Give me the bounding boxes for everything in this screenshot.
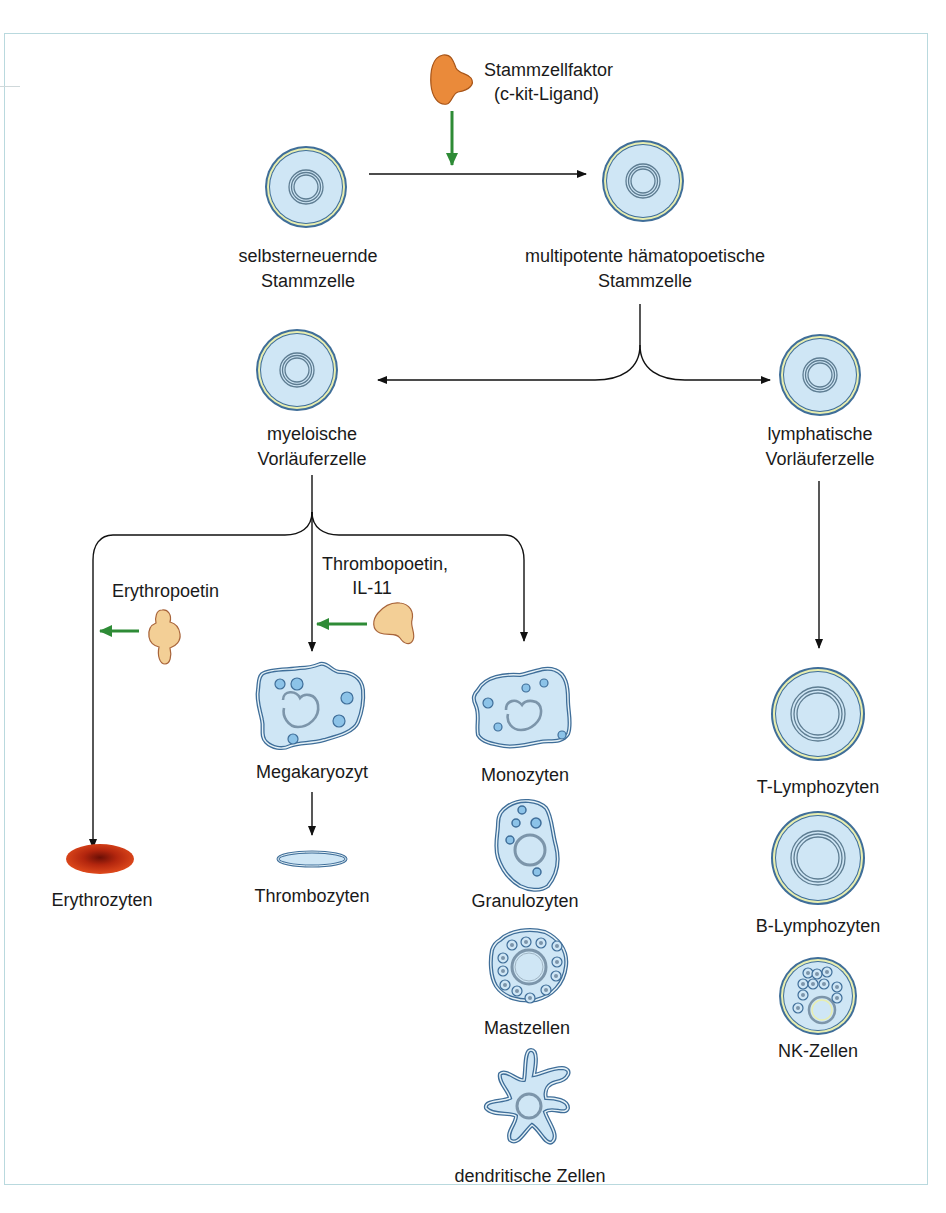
monocyte-icon	[474, 669, 570, 747]
nk-cells-label: NK-Zellen	[778, 1041, 858, 1061]
myeloid-branch-arrows	[93, 475, 524, 848]
thrombopoetin-label: Thrombopoetin,	[322, 554, 448, 574]
thrombopoetin-label-2: IL-11	[352, 578, 392, 598]
thrombocyte-icon	[278, 852, 346, 866]
b-lymphocytes-label: B-Lymphozyten	[756, 916, 880, 936]
dendritic-cells-label: dendritische Zellen	[454, 1166, 605, 1186]
myeloid-progenitor-icon	[256, 329, 338, 411]
dendritic-cell-icon	[486, 1050, 569, 1143]
multipotent-stem-cell-label-2: Stammzelle	[598, 271, 692, 291]
multipotent-stem-cell-icon	[602, 140, 684, 222]
hematopoiesis-diagram: Stammzellfaktor (c-kit-Ligand) selbstern…	[0, 0, 946, 1213]
lymphoid-progenitor-label-2: Vorläuferzelle	[765, 449, 874, 469]
monocytes-label: Monozyten	[481, 765, 569, 785]
mast-cells-label: Mastzellen	[484, 1018, 570, 1038]
growth-factor-orange-icon	[431, 55, 473, 104]
t-lymphocytes-label: T-Lymphozyten	[757, 777, 879, 797]
growth-factor-tan-icon	[149, 610, 180, 664]
erythrocyte-icon	[66, 844, 134, 874]
granulocyte-icon	[496, 801, 557, 890]
self-renewing-stem-cell-label: selbsterneuernde	[238, 246, 377, 266]
growth-factor-tan-icon	[374, 603, 414, 644]
nk-cell-icon	[779, 957, 857, 1035]
megakaryocyte-label: Megakaryozyt	[256, 762, 368, 782]
stem-cell-factor-label: Stammzellfaktor	[484, 60, 613, 80]
branch-arrows	[378, 304, 770, 380]
erythrocytes-label: Erythrozyten	[51, 890, 152, 910]
thrombocytes-label: Thrombozyten	[254, 886, 369, 906]
multipotent-stem-cell-label: multipotente hämatopoetische	[525, 246, 765, 266]
stem-cell-factor-label-2: (c-kit-Ligand)	[494, 84, 599, 104]
t-lymphocyte-icon	[771, 667, 865, 761]
granulocytes-label: Granulozyten	[471, 891, 578, 911]
self-renewing-stem-cell-label-2: Stammzelle	[261, 271, 355, 291]
b-lymphocyte-icon	[771, 811, 865, 905]
myeloid-progenitor-label: myeloische	[267, 424, 357, 444]
myeloid-progenitor-label-2: Vorläuferzelle	[257, 449, 366, 469]
lymphoid-progenitor-icon	[779, 334, 861, 416]
erythropoetin-label: Erythropoetin	[112, 581, 219, 601]
lymphoid-progenitor-label: lymphatische	[767, 424, 872, 444]
self-renewing-stem-cell-icon	[265, 146, 347, 228]
mast-cell-icon	[491, 930, 566, 1003]
megakaryocyte-icon	[257, 664, 363, 748]
